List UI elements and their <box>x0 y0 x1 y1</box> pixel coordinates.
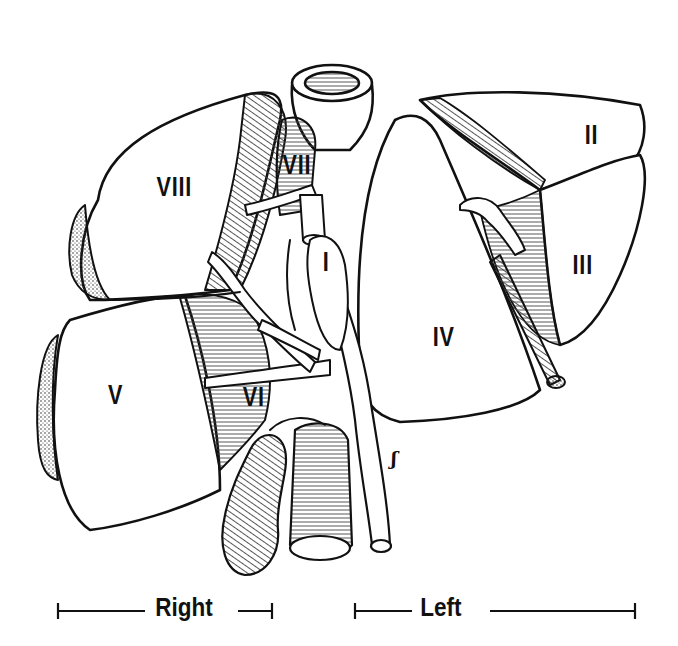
liver-segment-illustration: VIII VII I II III IV V VI ʃ Right Left <box>0 0 678 646</box>
right-side-label: Right <box>155 593 212 622</box>
segment-label-i: I <box>323 247 330 278</box>
segment-label-iii: III <box>573 250 593 281</box>
segment-label-ii: II <box>585 120 599 151</box>
left-side-label: Left <box>420 593 461 622</box>
segment-label-viii: VIII <box>156 172 192 203</box>
liver-drawing <box>0 0 678 646</box>
scale-bars <box>58 603 635 619</box>
segment-label-iv: IV <box>433 322 455 353</box>
segment-label-v: V <box>108 380 123 411</box>
artist-signature: ʃ <box>391 448 397 469</box>
segment-label-vi: VI <box>243 382 265 413</box>
segment-label-vii: VII <box>283 150 312 181</box>
